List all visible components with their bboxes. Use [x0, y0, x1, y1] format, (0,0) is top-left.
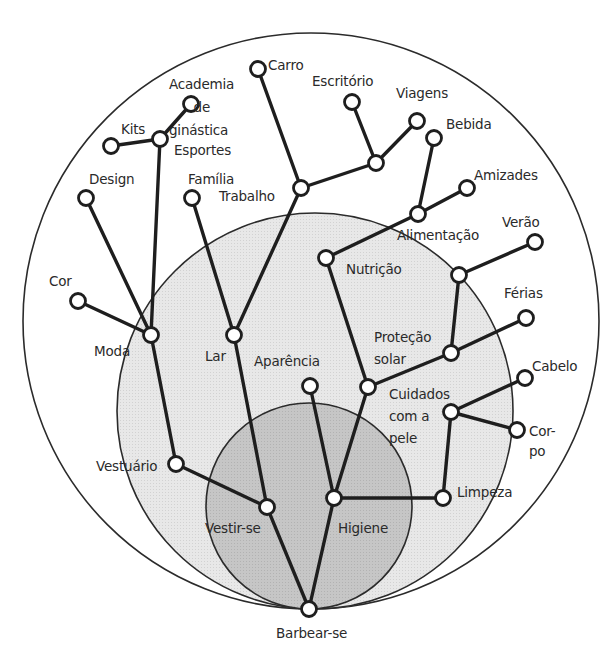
node-hub_verao: [452, 268, 467, 283]
label-moda: Moda: [94, 343, 130, 359]
node-trabalho: [294, 181, 309, 196]
label-aparencia: Aparência: [254, 353, 320, 369]
node-design: [79, 191, 94, 206]
node-vestir: [260, 500, 275, 515]
label-barbear: Barbear-se: [276, 625, 347, 641]
mind-map-diagram: Carro Academia de ginástica Kits Esporte…: [0, 0, 616, 669]
node-hub_cuid: [361, 380, 376, 395]
label-alimentacao: Alimentação: [397, 227, 479, 243]
node-alimentacao: [411, 207, 426, 222]
label-esportes: Esportes: [174, 142, 231, 158]
node-bebida: [427, 131, 442, 146]
label-cabelo: Cabelo: [532, 358, 577, 374]
node-cor: [71, 294, 86, 309]
node-vestuario: [169, 457, 184, 472]
label-familia: Família: [188, 171, 234, 187]
label-cuidados: Cuidados com a pele: [389, 383, 450, 449]
node-familia: [185, 191, 200, 206]
label-carro: Carro: [268, 57, 304, 73]
label-viagens: Viagens: [396, 85, 448, 101]
label-kits: Kits: [121, 121, 145, 137]
label-higiene: Higiene: [338, 520, 388, 536]
label-cor: Cor: [49, 273, 72, 289]
label-lar: Lar: [205, 348, 226, 364]
node-cabelo: [518, 371, 533, 386]
label-vestuario: Vestuário: [96, 458, 157, 474]
node-aparencia: [303, 379, 318, 394]
label-trabalho: Trabalho: [219, 188, 275, 204]
concentric-circles: [23, 33, 599, 609]
label-verao: Verão: [502, 214, 540, 230]
label-academia: Academia de ginástica: [169, 73, 234, 142]
label-ferias: Férias: [504, 285, 543, 301]
node-hub_trab: [369, 156, 384, 171]
label-limpeza: Limpeza: [457, 484, 512, 500]
inner-circle: [206, 403, 412, 609]
node-nutricao: [319, 251, 334, 266]
node-ferias: [519, 311, 534, 326]
node-higiene: [327, 491, 342, 506]
node-barbear: [302, 602, 317, 617]
label-nutricao: Nutrição: [346, 261, 402, 277]
label-protecao: Proteção solar: [374, 326, 431, 370]
node-amizades: [460, 181, 475, 196]
label-escritorio: Escritório: [312, 73, 373, 89]
node-carro: [251, 62, 266, 77]
label-design: Design: [89, 171, 134, 187]
node-moda: [144, 328, 159, 343]
node-viagens: [410, 114, 425, 129]
node-esportes: [153, 132, 168, 147]
diagram-canvas: [0, 0, 616, 669]
node-escritorio: [345, 95, 360, 110]
node-kits: [104, 139, 119, 154]
label-corpo: Cor- po: [529, 421, 555, 461]
label-vestir: Vestir-se: [205, 520, 261, 536]
node-verao: [528, 235, 543, 250]
node-lar: [227, 328, 242, 343]
label-bebida: Bebida: [446, 116, 492, 132]
node-protecao: [444, 346, 459, 361]
label-amizades: Amizades: [474, 167, 538, 183]
node-corpo: [510, 423, 525, 438]
node-limpeza: [436, 491, 451, 506]
